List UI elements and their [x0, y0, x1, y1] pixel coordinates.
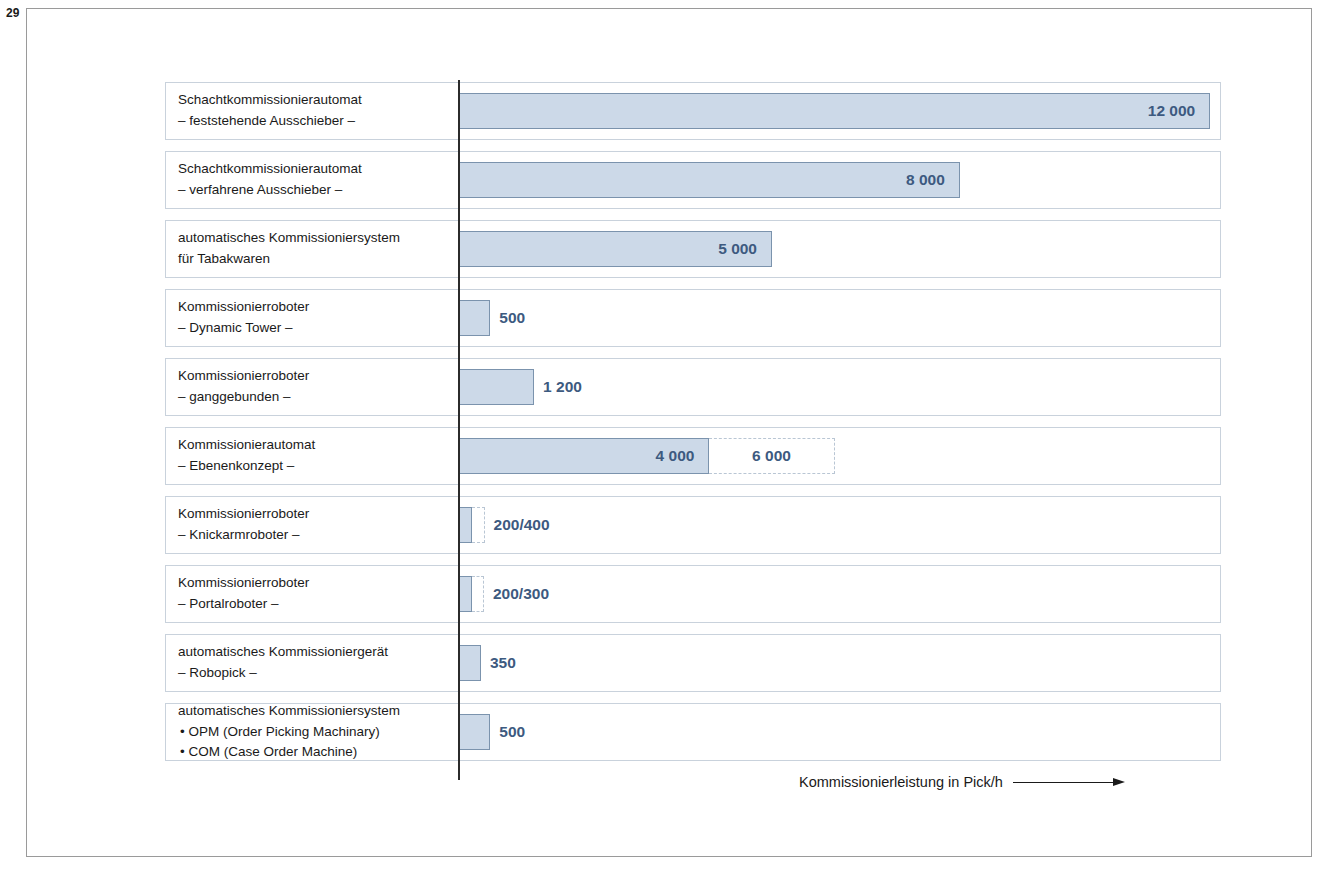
bar-solid	[459, 714, 490, 750]
row-category-label-line: automatisches Kommissioniersystem	[178, 701, 446, 722]
row-category-label: Kommissionierroboter– ganggebunden –	[178, 359, 446, 415]
row-category-label: Schachtkommissionierautomat– feststehend…	[178, 83, 446, 139]
row-category-label-line: – verfahrene Ausschieber –	[178, 180, 446, 201]
bar-range-extension: 6 000	[709, 438, 834, 474]
row-category-label-line: automatisches Kommissioniergerät	[178, 642, 446, 663]
row-category-label-line: – Portalroboter –	[178, 594, 446, 615]
row-category-label-line: • OPM (Order Picking Machinary)	[178, 722, 446, 743]
bar-track: 200/400	[459, 497, 1220, 553]
bar-solid	[459, 369, 534, 405]
bar-solid	[459, 576, 472, 612]
row-category-label: Schachtkommissionierautomat– verfahrene …	[178, 152, 446, 208]
bar-range-extension	[472, 576, 484, 612]
bar-value-label: 500	[499, 723, 525, 741]
axis-caption: Kommissionierleistung in Pick/h	[799, 774, 1125, 790]
row-category-label-line: Kommissionierroboter	[178, 504, 446, 525]
bar-track: 1 200	[459, 359, 1220, 415]
table-row: Schachtkommissionierautomat– verfahrene …	[165, 151, 1221, 209]
bar-value-label: 12 000	[1148, 102, 1209, 120]
bar-group: 500	[459, 300, 490, 336]
table-row: automatisches Kommissioniergerät– Robopi…	[165, 634, 1221, 692]
table-row: Schachtkommissionierautomat– feststehend…	[165, 82, 1221, 140]
row-category-label-line: – ganggebunden –	[178, 387, 446, 408]
row-category-label-line: – Dynamic Tower –	[178, 318, 446, 339]
bar-extension-value-label: 6 000	[742, 447, 801, 465]
row-category-label: Kommissionierautomat– Ebenenkonzept –	[178, 428, 446, 484]
bar-value-label: 350	[490, 654, 516, 672]
row-category-label-line: Schachtkommissionierautomat	[178, 90, 446, 111]
table-row: automatisches Kommissioniersystemfür Tab…	[165, 220, 1221, 278]
bar-track: 12 000	[459, 83, 1220, 139]
bar-group: 1 200	[459, 369, 534, 405]
bar-group: 500	[459, 714, 490, 750]
axis-caption-label: Kommissionierleistung in Pick/h	[799, 774, 1003, 790]
bar-solid: 4 000	[459, 438, 709, 474]
bar-solid	[459, 645, 481, 681]
bar-track: 200/300	[459, 566, 1220, 622]
bar-group: 8 000	[459, 162, 960, 198]
table-row: Kommissionierroboter– Portalroboter –200…	[165, 565, 1221, 623]
bar-value-label: 1 200	[543, 378, 582, 396]
row-category-label-line: Kommissionierroboter	[178, 573, 446, 594]
bar-value-label: 200/400	[494, 516, 550, 534]
row-category-label-line: – Knickarmroboter –	[178, 525, 446, 546]
bar-track: 5 000	[459, 221, 1220, 277]
table-row: Kommissionierroboter– ganggebunden –1 20…	[165, 358, 1221, 416]
table-row: Kommissionierroboter– Knickarmroboter –2…	[165, 496, 1221, 554]
row-category-label-line: • COM (Case Order Machine)	[178, 742, 446, 763]
bar-solid: 8 000	[459, 162, 960, 198]
table-row: Kommissionierautomat– Ebenenkonzept –4 0…	[165, 427, 1221, 485]
row-category-label: automatisches Kommissioniergerät– Robopi…	[178, 635, 446, 691]
bar-range-extension	[472, 507, 485, 543]
bar-value-label: 4 000	[656, 447, 709, 465]
bar-solid	[459, 300, 490, 336]
row-category-label-line: Kommissionierautomat	[178, 435, 446, 456]
bar-group: 5 000	[459, 231, 772, 267]
bar-group: 200/300	[459, 576, 484, 612]
bar-track: 350	[459, 635, 1220, 691]
row-category-label: automatisches Kommissioniersystemfür Tab…	[178, 221, 446, 277]
row-category-label: Kommissionierroboter– Knickarmroboter –	[178, 497, 446, 553]
bar-solid: 5 000	[459, 231, 772, 267]
row-category-label: Kommissionierroboter– Dynamic Tower –	[178, 290, 446, 346]
bar-group: 12 000	[459, 93, 1210, 129]
bar-value-label: 5 000	[718, 240, 771, 258]
bar-track: 4 0006 000	[459, 428, 1220, 484]
bar-value-label: 200/300	[493, 585, 549, 603]
table-row: automatisches Kommissioniersystem• OPM (…	[165, 703, 1221, 761]
table-row: Kommissionierroboter– Dynamic Tower –500	[165, 289, 1221, 347]
row-category-label-line: für Tabakwaren	[178, 249, 446, 270]
bar-value-label: 500	[499, 309, 525, 327]
bar-group: 350	[459, 645, 481, 681]
row-category-label-line: automatisches Kommissioniersystem	[178, 228, 446, 249]
bar-track: 500	[459, 704, 1220, 760]
bar-group: 200/400	[459, 507, 485, 543]
row-category-label-line: – feststehende Ausschieber –	[178, 111, 446, 132]
bar-track: 8 000	[459, 152, 1220, 208]
bar-value-label: 8 000	[906, 171, 959, 189]
axis-arrow-icon	[1013, 777, 1125, 787]
bar-solid: 12 000	[459, 93, 1210, 129]
bar-chart: Schachtkommissionierautomat– feststehend…	[139, 74, 1195, 774]
bar-group: 4 0006 000	[459, 438, 835, 474]
row-category-label-line: Schachtkommissionierautomat	[178, 159, 446, 180]
value-axis-line	[458, 80, 460, 780]
row-category-label-line: Kommissionierroboter	[178, 297, 446, 318]
row-category-label: automatisches Kommissioniersystem• OPM (…	[178, 704, 446, 760]
row-category-label-line: Kommissionierroboter	[178, 366, 446, 387]
figure-frame: Schachtkommissionierautomat– feststehend…	[26, 8, 1312, 857]
row-category-label: Kommissionierroboter– Portalroboter –	[178, 566, 446, 622]
page-number: 29	[6, 6, 20, 20]
row-category-label-line: – Ebenenkonzept –	[178, 456, 446, 477]
row-category-label-line: – Robopick –	[178, 663, 446, 684]
bar-track: 500	[459, 290, 1220, 346]
bar-solid	[459, 507, 472, 543]
